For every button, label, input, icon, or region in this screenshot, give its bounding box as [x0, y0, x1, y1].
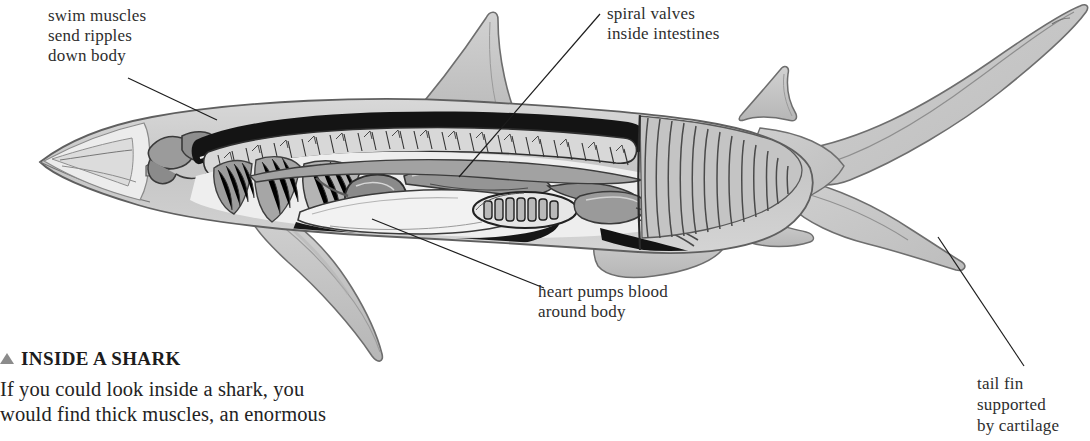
- triangle-up-icon: [0, 353, 14, 364]
- callout-heart-pumps-blood: heart pumps blood around body: [538, 282, 668, 322]
- caption-block: INSIDE A SHARK If you could look inside …: [0, 348, 470, 427]
- caption-heading-text: INSIDE A SHARK: [21, 348, 181, 370]
- callout-spiral-valves: spiral valves inside intestines: [607, 4, 719, 44]
- figure-page: swim muscles send ripples down body spir…: [0, 0, 1090, 441]
- second-dorsal-fin: [739, 67, 796, 121]
- callout-swim-muscles: swim muscles send ripples down body: [48, 6, 146, 66]
- leader-tail-fin: [938, 237, 1024, 366]
- callout-tail-fin-cartilage: tail fin supported by cartilage: [977, 373, 1059, 436]
- caudal-tail-fin: [753, 5, 1087, 271]
- caption-heading: INSIDE A SHARK: [0, 348, 470, 370]
- caption-body-text: If you could look inside a shark, you wo…: [0, 377, 470, 427]
- spiral-valve-intestine: [473, 192, 577, 228]
